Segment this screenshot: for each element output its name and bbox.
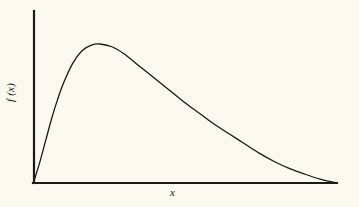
x-axis-label: x xyxy=(170,186,175,198)
plot-canvas xyxy=(0,0,359,207)
y-axis-label: f (x) xyxy=(3,88,37,102)
density-plot-figure: f (x) x xyxy=(0,0,359,207)
density-curve xyxy=(34,44,336,183)
